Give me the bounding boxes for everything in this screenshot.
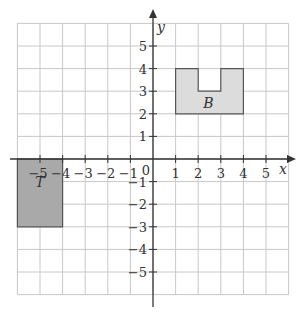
- y-tick-label: 1: [139, 129, 147, 144]
- y-tick-label: 2: [139, 107, 147, 122]
- y-tick-label: −3: [128, 220, 147, 235]
- y-tick-label: 4: [139, 62, 147, 77]
- x-axis-label: x: [279, 161, 287, 177]
- y-tick-label: −5: [128, 265, 147, 280]
- y-tick-label: 3: [139, 84, 147, 99]
- axes: [10, 9, 296, 307]
- y-tick-label: −2: [128, 197, 147, 212]
- x-tick-label: −2: [96, 166, 115, 181]
- shape-b-label: B: [202, 95, 213, 111]
- x-tick-label: 1: [171, 166, 179, 181]
- y-tick-label: −4: [128, 242, 147, 257]
- x-tick-label: 2: [194, 166, 202, 181]
- x-tick-label: 4: [239, 166, 247, 181]
- x-tick-label: 3: [217, 166, 225, 181]
- y-axis-arrowhead-icon: [149, 9, 157, 18]
- x-tick-label: 5: [262, 166, 270, 181]
- y-tick-label: 5: [139, 39, 147, 54]
- y-axis-label: y: [156, 19, 166, 35]
- origin-label: 0: [142, 163, 150, 178]
- x-tick-label: −4: [51, 166, 70, 181]
- coordinate-grid-diagram: −5−4−3−2−11234554321−1−2−3−4−5 x y 0 T B: [0, 0, 299, 314]
- x-tick-label: −3: [74, 166, 93, 181]
- x-axis-arrowhead-icon: [287, 155, 296, 163]
